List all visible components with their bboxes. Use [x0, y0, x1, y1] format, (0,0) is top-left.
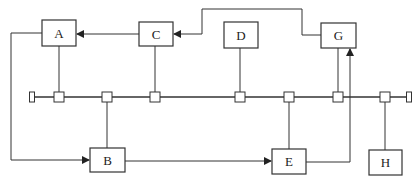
node-label: D	[236, 28, 245, 43]
diagram-canvas: ACDGBEH	[0, 0, 420, 184]
tap-connector-d	[235, 92, 245, 102]
node-e: E	[272, 149, 306, 174]
node-label: E	[285, 154, 293, 169]
node-b: B	[90, 148, 125, 172]
tap-connector-e	[284, 92, 294, 102]
node-label: G	[334, 28, 343, 43]
tap-connector-a	[54, 92, 64, 102]
node-label: C	[152, 27, 161, 42]
node-g: G	[321, 23, 356, 48]
node-a: A	[42, 20, 76, 46]
bus-terminator-left	[30, 92, 35, 102]
bus-line	[30, 92, 412, 102]
network-diagram: ACDGBEH	[0, 0, 420, 184]
node-c: C	[139, 22, 173, 46]
arrow-e-to-g	[306, 49, 350, 162]
tap-connector-h	[380, 92, 390, 102]
tap-connector-b	[102, 92, 112, 102]
tap-connector-g	[333, 92, 343, 102]
node-label: A	[54, 26, 64, 41]
node-label: H	[381, 155, 390, 170]
node-label: B	[103, 153, 112, 168]
node-d: D	[224, 22, 258, 48]
tap-connector-c	[150, 92, 160, 102]
bus-terminator-right	[407, 92, 412, 102]
node-h: H	[369, 150, 402, 175]
